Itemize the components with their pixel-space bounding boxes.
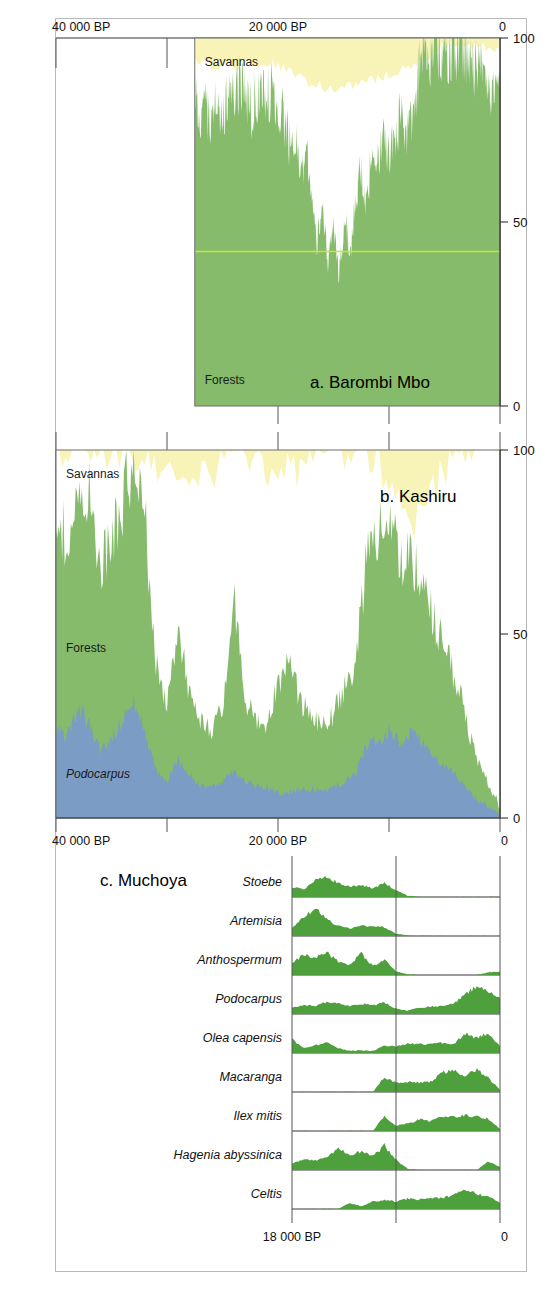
savannas-label: Savannas	[66, 467, 119, 481]
forests-label: Forests	[205, 373, 245, 387]
percent-tick-label: 100	[513, 31, 535, 46]
taxon-label: Macaranga	[219, 1070, 282, 1084]
panel-c-title: c. Muchoya	[100, 871, 187, 890]
taxon-label: Olea capensis	[203, 1031, 282, 1045]
percent-tick-label: 0	[513, 811, 520, 826]
podocarpus-label: Podocarpus	[66, 767, 130, 781]
panel-b-title: b. Kashiru	[380, 487, 457, 506]
percent-tick-label: 50	[513, 215, 527, 230]
forests-label: Forests	[66, 641, 106, 655]
muchoya-axis-tick-label: 0	[501, 1230, 508, 1244]
taxon-label: Anthospermum	[196, 953, 282, 967]
top-axis-tick-label: 0	[499, 20, 506, 34]
pollen-diagram-figure: 40 000 BP20 000 BP0100500SavannasForests…	[0, 0, 558, 1302]
percent-tick-label: 50	[513, 627, 527, 642]
bottom-axis-tick-label: 20 000 BP	[249, 834, 307, 848]
panel-muchoya: StoebeArtemisiaAnthospermumPodocarpusOle…	[0, 850, 558, 1290]
taxon-label: Podocarpus	[215, 992, 282, 1006]
bottom-axis-tick-label: 0	[501, 834, 508, 848]
taxon-label: Stoebe	[242, 875, 282, 889]
top-axis-tick-label: 20 000 BP	[249, 20, 307, 34]
panel-barombi-mbo: 40 000 BP20 000 BP0100500SavannasForests…	[0, 18, 558, 438]
panel-c-canvas: StoebeArtemisiaAnthospermumPodocarpusOle…	[0, 850, 558, 1290]
taxon-label: Ilex mitis	[233, 1109, 282, 1123]
taxon-label: Hagenia abyssinica	[174, 1148, 282, 1162]
bottom-axis-tick-label: 40 000 BP	[52, 834, 110, 848]
panel-a-title: a. Barombi Mbo	[310, 373, 430, 392]
taxon-label: Artemisia	[229, 914, 282, 928]
percent-tick-label: 0	[513, 399, 520, 414]
panel-a-canvas: 40 000 BP20 000 BP0100500SavannasForests…	[0, 18, 558, 438]
muchoya-axis-tick-label: 18 000 BP	[263, 1230, 321, 1244]
panel-b-canvas: 10050040 000 BP20 000 BP0SavannasForests…	[0, 430, 558, 850]
percent-tick-label: 100	[513, 443, 535, 458]
savannas-label: Savannas	[205, 55, 258, 69]
top-axis-tick-label: 40 000 BP	[52, 20, 110, 34]
taxon-label: Celtis	[251, 1187, 282, 1201]
panel-kashiru: 10050040 000 BP20 000 BP0SavannasForests…	[0, 430, 558, 850]
